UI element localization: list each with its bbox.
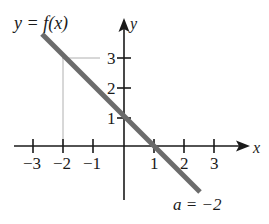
y-tick-label-2: 2 — [107, 80, 116, 97]
function-label: y = f(x) — [14, 14, 68, 32]
x-tick-label-neg1: −1 — [83, 155, 101, 172]
parameter-note-label: a = −2 — [173, 196, 221, 213]
y-tick-label-3: 3 — [107, 50, 116, 67]
x-tick-label-neg2: −2 — [53, 155, 71, 172]
x-tick-label-pos2: 2 — [180, 155, 189, 172]
graph-figure: −3 −2 −1 1 2 3 1 2 3 x y y = f(x) a = −2 — [0, 0, 269, 224]
x-tick-label-neg3: −3 — [23, 155, 41, 172]
y-tick-label-1: 1 — [107, 110, 116, 127]
coordinate-plane — [0, 0, 269, 224]
x-axis-label: x — [253, 140, 260, 156]
x-tick-label-pos3: 3 — [210, 155, 219, 172]
y-axis-label: y — [130, 16, 137, 32]
x-tick-label-pos1: 1 — [150, 155, 159, 172]
